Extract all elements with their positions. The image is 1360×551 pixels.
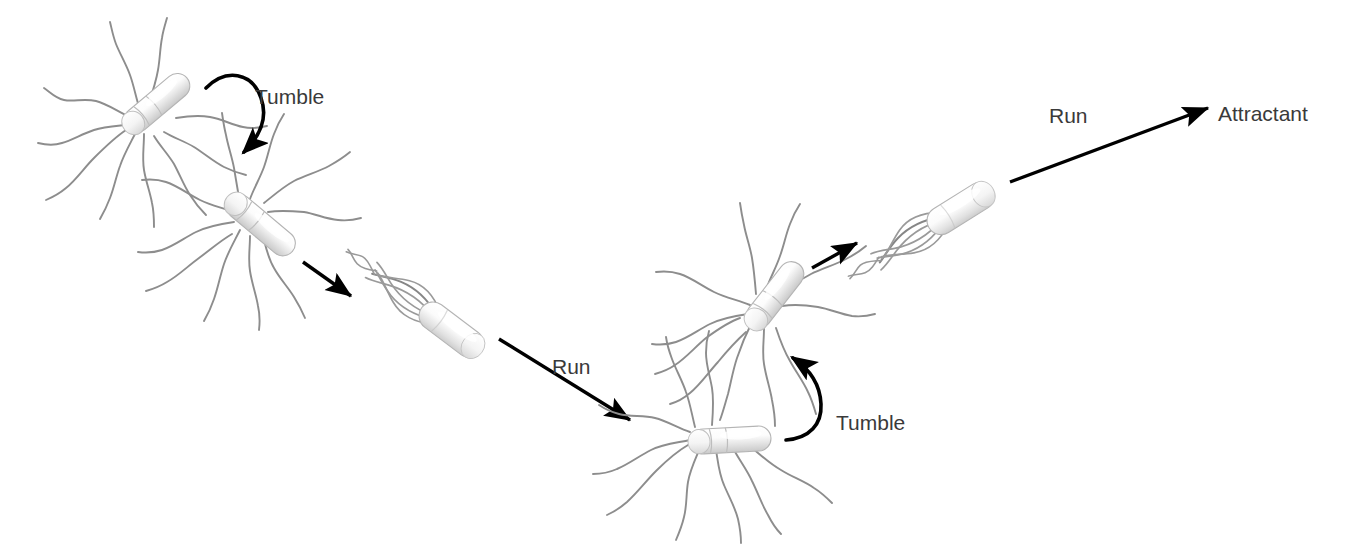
diagram-background (0, 0, 1360, 551)
run-label-1: Run (552, 355, 591, 378)
tumble-label-2: Tumble (836, 411, 905, 434)
run-label-2: Run (1049, 104, 1088, 127)
chemotaxis-diagram: Tumble (0, 0, 1360, 551)
diagram-canvas: Tumble (0, 0, 1360, 551)
cell-body (687, 425, 771, 454)
attractant-label: Attractant (1218, 102, 1308, 125)
tumble-label-1: Tumble (255, 85, 324, 108)
